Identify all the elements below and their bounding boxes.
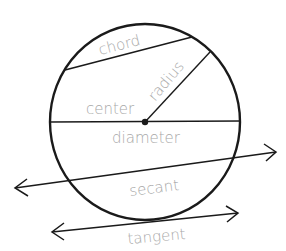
center-point bbox=[142, 119, 148, 125]
secant-label: secant bbox=[128, 176, 180, 200]
radius-label: radius bbox=[144, 57, 188, 104]
center-label: center bbox=[86, 100, 135, 118]
chord-label: chord bbox=[97, 31, 142, 59]
diameter-label: diameter bbox=[112, 129, 181, 147]
circle-parts-diagram: chord radius center diameter secant tang… bbox=[0, 0, 286, 251]
diagram-canvas: chord radius center diameter secant tang… bbox=[0, 0, 286, 251]
tangent-label: tangent bbox=[127, 225, 187, 248]
